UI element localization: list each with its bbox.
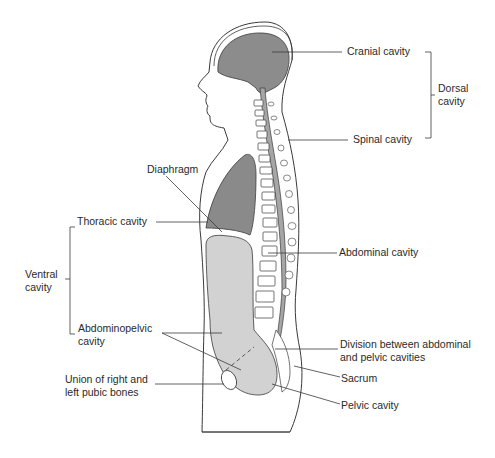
label-dorsal-line2: cavity bbox=[438, 95, 465, 108]
ventral-bracket bbox=[65, 227, 75, 334]
label-abdominal-cavity: Abdominal cavity bbox=[339, 246, 418, 259]
label-spinal-cavity: Spinal cavity bbox=[353, 133, 412, 146]
label-pubic-line1: Union of right and bbox=[65, 373, 148, 386]
label-ventral-line1: Ventral bbox=[25, 268, 58, 281]
label-division-line1: Division between abdominal bbox=[340, 338, 471, 351]
label-dorsal-line1: Dorsal bbox=[438, 82, 468, 95]
label-abdominopelvic-line1: Abdominopelvic bbox=[78, 322, 152, 335]
label-abdominopelvic-line2: cavity bbox=[78, 335, 105, 348]
label-division-line2: and pelvic cavities bbox=[340, 351, 425, 364]
label-thoracic-cavity: Thoracic cavity bbox=[77, 215, 147, 228]
label-pubic-line2: left pubic bones bbox=[65, 386, 139, 399]
label-diaphragm: Diaphragm bbox=[147, 163, 198, 176]
label-pelvic-cavity: Pelvic cavity bbox=[341, 399, 399, 412]
dorsal-bracket bbox=[425, 52, 435, 138]
label-sacrum: Sacrum bbox=[341, 372, 377, 385]
label-ventral-line2: cavity bbox=[25, 281, 52, 294]
label-cranial-cavity: Cranial cavity bbox=[347, 45, 410, 58]
